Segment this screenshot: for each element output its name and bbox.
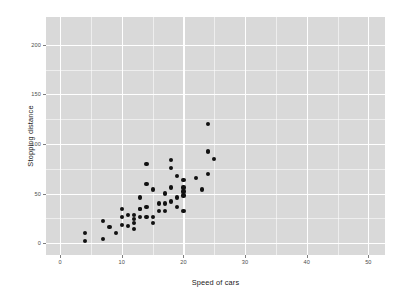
gridline-minor-vertical	[276, 17, 277, 255]
x-tick-label: 30	[242, 259, 248, 265]
plot-panel	[46, 17, 385, 255]
gridline-major-vertical	[60, 17, 61, 255]
gridline-major-horizontal	[46, 194, 385, 195]
y-tick-mark	[43, 144, 46, 145]
data-point	[107, 225, 111, 229]
x-tick-mark	[307, 255, 308, 258]
scatter-plot-figure: 01020304050 050100150200 Speed of cars S…	[0, 0, 403, 308]
data-point	[212, 157, 216, 161]
data-point	[169, 158, 173, 162]
data-point	[120, 207, 124, 211]
data-point	[206, 172, 210, 176]
data-point	[83, 231, 87, 235]
data-point	[206, 122, 210, 126]
data-point	[181, 185, 185, 189]
data-point	[169, 166, 173, 170]
x-tick-mark	[122, 255, 123, 258]
gridline-minor-vertical	[91, 17, 92, 255]
data-point	[163, 209, 167, 213]
data-point	[132, 221, 136, 225]
data-point	[138, 195, 142, 199]
gridline-minor-horizontal	[46, 169, 385, 170]
data-point	[175, 174, 179, 178]
data-point	[138, 207, 142, 211]
data-point	[157, 201, 161, 205]
y-axis-title: Stopping distance	[26, 17, 35, 255]
y-tick-mark	[43, 94, 46, 95]
data-point	[144, 162, 148, 166]
x-tick-mark	[183, 255, 184, 258]
data-point	[144, 182, 148, 186]
data-point	[163, 191, 167, 195]
x-tick-label: 40	[304, 259, 310, 265]
data-point	[175, 195, 179, 199]
x-tick-label: 20	[180, 259, 186, 265]
data-point	[169, 199, 173, 203]
y-tick-mark	[43, 45, 46, 46]
data-point	[181, 178, 185, 182]
data-point	[169, 185, 173, 189]
data-point	[200, 187, 204, 191]
data-point	[157, 209, 161, 213]
gridline-major-vertical	[245, 17, 246, 255]
gridline-major-horizontal	[46, 94, 385, 95]
data-point	[151, 221, 155, 225]
data-point	[181, 189, 185, 193]
gridline-major-horizontal	[46, 45, 385, 46]
x-tick-mark	[368, 255, 369, 258]
x-tick-label: 10	[119, 259, 125, 265]
x-tick-mark	[60, 255, 61, 258]
data-point	[175, 205, 179, 209]
data-point	[126, 224, 130, 228]
gridline-major-vertical	[183, 17, 184, 255]
data-point	[120, 223, 124, 227]
gridline-major-horizontal	[46, 243, 385, 244]
y-tick-mark	[43, 194, 46, 195]
data-point	[126, 213, 130, 217]
data-point	[114, 231, 118, 235]
data-point	[194, 176, 198, 180]
data-point	[144, 215, 148, 219]
data-point	[163, 201, 167, 205]
gridline-minor-vertical	[153, 17, 154, 255]
x-tick-label: 50	[365, 259, 371, 265]
gridline-minor-vertical	[214, 17, 215, 255]
data-point	[181, 209, 185, 213]
gridline-major-horizontal	[46, 144, 385, 145]
x-tick-mark	[245, 255, 246, 258]
gridline-minor-horizontal	[46, 218, 385, 219]
data-point	[132, 227, 136, 231]
gridline-minor-vertical	[338, 17, 339, 255]
gridline-minor-horizontal	[46, 70, 385, 71]
gridline-minor-horizontal	[46, 119, 385, 120]
gridline-major-vertical	[122, 17, 123, 255]
x-axis-title: Speed of cars	[46, 278, 385, 287]
data-point	[101, 219, 105, 223]
gridline-major-vertical	[307, 17, 308, 255]
data-point	[151, 187, 155, 191]
data-point	[101, 237, 105, 241]
gridline-major-vertical	[368, 17, 369, 255]
data-point	[144, 205, 148, 209]
data-point	[181, 193, 185, 197]
y-tick-mark	[43, 243, 46, 244]
data-point	[132, 217, 136, 221]
x-tick-label: 0	[59, 259, 62, 265]
